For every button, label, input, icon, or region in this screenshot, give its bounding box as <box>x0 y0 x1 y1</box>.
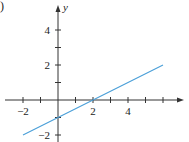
x-tick-label-2: 2 <box>90 105 96 117</box>
y-tick-label-4: 4 <box>45 24 51 36</box>
x-axis-arrow-icon <box>177 98 184 103</box>
x-axis: −2 2 4 <box>5 97 184 117</box>
panel-label: ) <box>0 0 4 13</box>
y-tick-label-neg2: −2 <box>38 129 50 141</box>
y-axis: y 4 2 −2 <box>38 1 68 142</box>
x-tick-label-neg2: −2 <box>17 105 29 117</box>
y-axis-arrow-icon <box>56 5 61 12</box>
line-chart: ) −2 2 4 y 4 2 <box>0 0 189 142</box>
y-tick-label-2: 2 <box>45 59 51 71</box>
y-axis-label: y <box>62 1 68 13</box>
x-tick-label-4: 4 <box>125 105 131 117</box>
